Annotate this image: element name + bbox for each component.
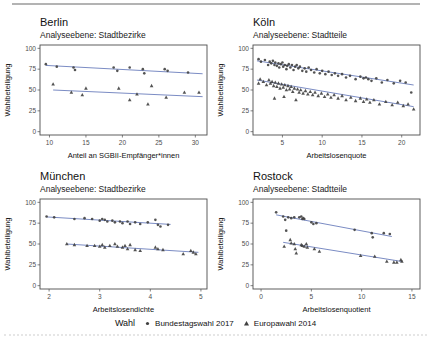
svg-text:75: 75 xyxy=(242,65,250,72)
svg-text:3: 3 xyxy=(98,293,102,300)
figure-page: { "colors": { "point": "#404040", "trend… xyxy=(0,0,431,339)
svg-text:15: 15 xyxy=(408,293,416,300)
panel-subtitle-muenchen: Analyseebene: Stadtbezirke xyxy=(40,184,215,194)
svg-text:0: 0 xyxy=(259,293,263,300)
svg-text:Wahlbeteiligung: Wahlbeteiligung xyxy=(3,63,12,116)
svg-text:Wahlbeteiligung: Wahlbeteiligung xyxy=(3,217,12,270)
panel-rostock: Rostock Analyseebene: Stadtteile 0510150… xyxy=(215,160,428,314)
circle-marker-icon xyxy=(144,320,151,327)
svg-text:Anteil an SGBII-Empfänger*inne: Anteil an SGBII-Empfänger*innen xyxy=(68,151,180,160)
svg-text:25: 25 xyxy=(242,107,250,114)
svg-text:10: 10 xyxy=(319,139,327,146)
panel-subtitle-koeln: Analyseebene: Stadtteile xyxy=(253,30,428,40)
svg-text:25: 25 xyxy=(29,107,37,114)
svg-text:10: 10 xyxy=(358,293,366,300)
svg-text:Wahlbeteiligung: Wahlbeteiligung xyxy=(216,217,225,270)
svg-text:Arbeitslosenquotient: Arbeitslosenquotient xyxy=(303,305,372,314)
legend-item-label: Europawahl 2014 xyxy=(254,319,316,328)
svg-text:0: 0 xyxy=(32,128,36,135)
svg-text:100: 100 xyxy=(25,45,36,52)
svg-text:50: 50 xyxy=(242,240,250,247)
svg-text:25: 25 xyxy=(29,261,37,268)
svg-text:15: 15 xyxy=(82,139,90,146)
panel-subtitle-berlin: Analyseebene: Stadtbezirke xyxy=(40,30,215,40)
svg-text:100: 100 xyxy=(238,199,249,206)
svg-text:Arbeitslosendichte: Arbeitslosendichte xyxy=(93,305,154,314)
svg-text:0: 0 xyxy=(32,282,36,289)
svg-text:25: 25 xyxy=(242,261,250,268)
panel-muenchen: München Analyseebene: Stadtbezirke 23450… xyxy=(2,160,215,314)
scatter-plot-rostock: 0510150255075100ArbeitslosenquotientWahl… xyxy=(215,196,428,314)
svg-text:25: 25 xyxy=(155,139,163,146)
svg-text:100: 100 xyxy=(238,45,249,52)
svg-text:5: 5 xyxy=(310,293,314,300)
cut-off-text-artifact xyxy=(4,334,427,336)
svg-text:5: 5 xyxy=(281,139,285,146)
svg-text:20: 20 xyxy=(119,139,127,146)
scatter-plot-muenchen: 23450255075100ArbeitslosendichteWahlbete… xyxy=(2,196,215,314)
top-horizontal-rule xyxy=(12,3,420,5)
panel-title-muenchen: München xyxy=(40,170,215,183)
svg-text:75: 75 xyxy=(242,219,250,226)
legend-item-label: Bundestagswahl 2017 xyxy=(155,319,234,328)
svg-text:50: 50 xyxy=(242,86,250,93)
panel-title-berlin: Berlin xyxy=(40,16,215,29)
figure-scatter-grid: Berlin Analyseebene: Stadtbezirke 101520… xyxy=(2,12,429,328)
svg-text:75: 75 xyxy=(29,65,37,72)
svg-text:Wahlbeteiligung: Wahlbeteiligung xyxy=(216,63,225,116)
svg-text:75: 75 xyxy=(29,219,37,226)
svg-text:20: 20 xyxy=(398,139,406,146)
legend: Wahl Bundestagswahl 2017 Europawahl 2014 xyxy=(2,318,429,328)
svg-text:0: 0 xyxy=(245,128,249,135)
legend-item-bundestagswahl-2017: Bundestagswahl 2017 xyxy=(144,319,234,328)
triangle-marker-icon xyxy=(243,320,250,327)
panel-title-rostock: Rostock xyxy=(253,170,428,183)
svg-text:15: 15 xyxy=(358,139,366,146)
svg-text:4: 4 xyxy=(149,293,153,300)
panel-grid: Berlin Analyseebene: Stadtbezirke 101520… xyxy=(2,12,429,314)
scatter-plot-koeln: 51015200255075100ArbeitslosenquoteWahlbe… xyxy=(215,42,428,160)
legend-title: Wahl xyxy=(115,318,135,328)
panel-berlin: Berlin Analyseebene: Stadtbezirke 101520… xyxy=(2,12,215,160)
svg-text:Arbeitslosenquote: Arbeitslosenquote xyxy=(306,151,366,160)
panel-title-koeln: Köln xyxy=(253,16,428,29)
svg-text:2: 2 xyxy=(47,293,51,300)
scatter-plot-berlin: 10152025300255075100Anteil an SGBII-Empf… xyxy=(2,42,215,160)
svg-text:5: 5 xyxy=(199,293,203,300)
legend-item-europawahl-2014: Europawahl 2014 xyxy=(243,319,316,328)
svg-text:50: 50 xyxy=(29,240,37,247)
svg-text:100: 100 xyxy=(25,199,36,206)
svg-text:10: 10 xyxy=(46,139,54,146)
panel-subtitle-rostock: Analyseebene: Stadtteile xyxy=(253,184,428,194)
panel-koeln: Köln Analyseebene: Stadtteile 5101520025… xyxy=(215,12,428,160)
svg-text:30: 30 xyxy=(192,139,200,146)
svg-text:0: 0 xyxy=(245,282,249,289)
svg-text:50: 50 xyxy=(29,86,37,93)
